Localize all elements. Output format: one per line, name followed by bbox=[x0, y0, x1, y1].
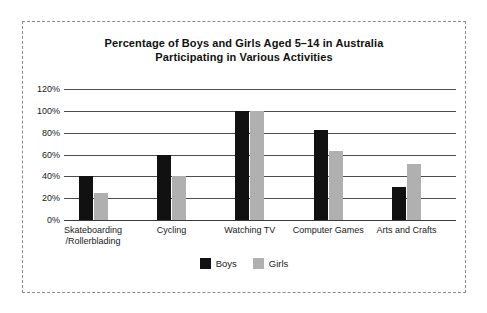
bar-boys-4 bbox=[314, 130, 328, 220]
bar-girls-2 bbox=[172, 176, 186, 220]
x-label-line-1: Arts and Crafts bbox=[377, 225, 437, 235]
y-tick-60%: 60% bbox=[42, 150, 60, 159]
x-label-2: Cycling bbox=[157, 225, 187, 236]
x-label-line-2: /Rollerblading bbox=[64, 236, 122, 247]
legend-label-boys: Boys bbox=[216, 258, 237, 269]
bar-boys-3 bbox=[235, 111, 249, 220]
x-label-line-1: Watching TV bbox=[224, 225, 275, 235]
legend-swatch-girls bbox=[253, 258, 264, 269]
x-label-3: Watching TV bbox=[224, 225, 275, 236]
bar-girls-1 bbox=[94, 193, 108, 220]
x-label-line-1: Computer Games bbox=[293, 225, 364, 235]
x-label-line-1: Cycling bbox=[157, 225, 187, 235]
bar-girls-4 bbox=[329, 151, 343, 220]
chart-figure-frame: Percentage of Boys and Girls Aged 5–14 i… bbox=[22, 21, 466, 293]
y-tick-20%: 20% bbox=[42, 194, 60, 203]
chart-title-line-1: Percentage of Boys and Girls Aged 5–14 i… bbox=[105, 37, 384, 49]
y-tick-100%: 100% bbox=[37, 106, 60, 115]
y-tick-0%: 0% bbox=[47, 216, 60, 225]
chart-title: Percentage of Boys and Girls Aged 5–14 i… bbox=[23, 36, 465, 64]
chart-legend: BoysGirls bbox=[23, 258, 465, 269]
bar-boys-5 bbox=[392, 187, 406, 220]
x-label-4: Computer Games bbox=[293, 225, 364, 236]
x-label-5: Arts and Crafts bbox=[377, 225, 437, 236]
y-tick-80%: 80% bbox=[42, 128, 60, 137]
gridline-120% bbox=[64, 89, 456, 90]
bar-boys-1 bbox=[79, 176, 93, 220]
chart-title-line-2: Participating in Various Activities bbox=[23, 50, 465, 64]
plot-area: 0%20%40%60%80%100%120% Skateboarding/Rol… bbox=[64, 89, 456, 220]
bar-girls-5 bbox=[407, 164, 421, 220]
legend-swatch-boys bbox=[200, 258, 211, 269]
legend-item-girls: Girls bbox=[253, 258, 289, 269]
x-label-1: Skateboarding/Rollerblading bbox=[64, 225, 122, 247]
legend-item-boys: Boys bbox=[200, 258, 237, 269]
y-tick-120%: 120% bbox=[37, 85, 60, 94]
gridline-0% bbox=[64, 220, 456, 221]
bar-boys-2 bbox=[157, 155, 171, 221]
x-label-line-1: Skateboarding bbox=[64, 225, 122, 235]
legend-label-girls: Girls bbox=[269, 258, 289, 269]
bar-girls-3 bbox=[250, 111, 264, 220]
y-tick-40%: 40% bbox=[42, 172, 60, 181]
